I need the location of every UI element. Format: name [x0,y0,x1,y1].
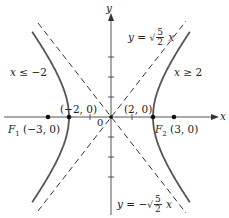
x-axis-label: x [220,111,226,122]
y-axis-label: y [106,3,112,14]
frac-den: 2 [157,38,163,47]
x-axis-arrow-icon [211,114,219,120]
f2-subscript: 2 [162,130,166,138]
vertex-right-point [151,115,156,120]
f2-coords: (3, 0) [170,123,198,135]
y-axis-arrow-icon [108,13,114,21]
frac-den: 2 [155,205,161,214]
asymptote-var: x [168,31,174,43]
origin-point [109,115,113,119]
x-axis [4,114,214,120]
left-branch-region-label: x x ≤ −2≤ −2 [10,67,47,78]
hyperbola-diagram: y x 0 x x ≤ −2≤ −2 x ≥ 2 y = √52 x y = −… [0,0,229,218]
f1-subscript: 1 [15,130,19,138]
asymptote-var: x [166,198,172,210]
asymptote-positive-label: y = √52 x [128,28,174,47]
vertex-left-point [67,115,72,120]
origin-label: 0 [97,118,103,128]
vertex-left-label: (−2, 0) [60,104,97,115]
vertex-right-label: (2, 0) [124,104,152,115]
right-branch-region-label: x ≥ 2 [174,67,202,78]
asymptote-negative-label: y = −√52 x [117,195,172,214]
focus-f2-label: F2 (3, 0) [155,124,198,138]
focus-f1-label: F1 (−3, 0) [8,124,60,138]
f1-coords: (−3, 0) [23,123,60,135]
diagram-canvas [0,0,229,218]
focus-f2-point [172,115,177,120]
focus-f1-point [46,115,51,120]
asymptote-sign: − [138,198,147,210]
